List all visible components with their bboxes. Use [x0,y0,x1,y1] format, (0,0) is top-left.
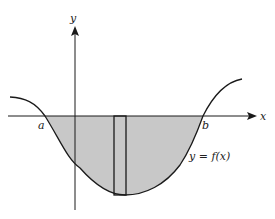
representative-strip [114,116,126,195]
x-axis-label: x [260,110,267,123]
curve-label: y = f(x) [188,150,230,163]
point-b-label: b [202,119,209,132]
integral-diagram: y x a b y = f(x) [0,0,275,219]
point-a-label: a [38,119,45,132]
y-axis-label: y [69,12,77,25]
